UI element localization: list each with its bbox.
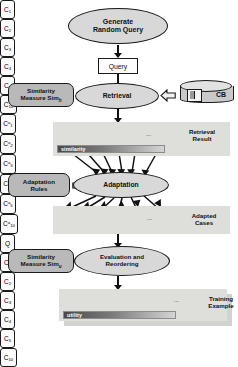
training-example-label: Training Example — [204, 295, 238, 309]
arrow-case-base-to-retrieval — [160, 89, 176, 102]
retrieval-result-line2: Result — [178, 135, 226, 142]
similarity-bottom-line2: Measure Simu — [21, 260, 62, 270]
adaptation-rules-line1: Adaptation — [23, 178, 55, 185]
adaptation-node[interactable]: Adaptation — [73, 172, 169, 198]
adapted-cases-line2: Cases — [180, 219, 228, 226]
training-case-chip-2[interactable]: C2 — [0, 272, 15, 291]
retrieval-result-line1: Retrieval — [178, 128, 226, 135]
query-box[interactable]: Query — [98, 58, 138, 74]
retrieval-result-label: Retrieval Result — [178, 128, 226, 142]
training-ellipsis: ... — [174, 297, 179, 303]
adapted-cases-line1: Adapted — [180, 212, 228, 219]
training-query-label: Q — [5, 240, 10, 247]
case-base-cylinder[interactable]: CB — [180, 80, 232, 108]
training-case-chip-last[interactable]: C10 — [0, 348, 17, 367]
retrieval-case-chip-1[interactable]: C1 — [0, 0, 15, 19]
similarity-bar-label: similarity — [58, 146, 86, 152]
similarity-measure-u-box[interactable]: Similarity Measure Simu — [8, 249, 74, 273]
retrieval-case-chip-4[interactable]: C4 — [0, 57, 15, 76]
generate-line1: Generate — [93, 18, 143, 26]
similarity-bottom-subscript: u — [59, 264, 62, 269]
adapted-case-chip-5[interactable]: Ca5 — [0, 194, 16, 214]
similarity-measure-h-box[interactable]: Similarity Measure Simh — [8, 83, 74, 107]
training-example-line2: Example — [204, 302, 238, 309]
utility-bar-label: utility — [64, 312, 82, 318]
adapted-cases-label: Adapted Cases — [180, 212, 228, 226]
adapted-case-chip-1[interactable]: Ca1 — [0, 114, 16, 134]
retrieval-ellipsis: ... — [146, 131, 151, 137]
similarity-bottom-label: Measure Sim — [21, 260, 59, 267]
evaluation-line2: Reordering — [100, 261, 144, 268]
adapted-case-chip-3[interactable]: Ca3 — [0, 154, 16, 174]
adapted-case-chip-2[interactable]: Ca2 — [0, 134, 16, 154]
similarity-top-subscript: h — [59, 98, 62, 103]
case-base-label: CB — [216, 91, 226, 98]
evaluation-reordering-node[interactable]: Evaluation and Reordering — [74, 246, 170, 276]
generate-random-query-node[interactable]: Generate Random Query — [68, 8, 168, 44]
adaptation-rules-box[interactable]: Adaptation Rules — [8, 173, 70, 197]
similarity-bottom-line1: Similarity — [21, 253, 62, 260]
adapted-case-chip-last[interactable]: Ca10 — [0, 214, 18, 234]
similarity-gradient-bar: similarity — [57, 145, 165, 153]
utility-gradient-bar: utility — [63, 311, 176, 319]
training-case-chip-4[interactable]: C4 — [0, 310, 15, 329]
retrieval-case-chip-2[interactable]: C2 — [0, 19, 15, 38]
generate-line2: Random Query — [93, 26, 143, 34]
retrieval-node[interactable]: Retrieval — [75, 83, 159, 109]
similarity-top-label: Measure Sim — [21, 94, 59, 101]
adaptation-rules-line2: Rules — [23, 185, 55, 192]
training-example-line1: Training — [204, 295, 238, 302]
case-card-icon — [187, 89, 202, 102]
retrieval-case-chip-3[interactable]: C3 — [0, 38, 15, 57]
training-case-chip-5[interactable]: C5 — [0, 329, 15, 348]
similarity-top-line2: Measure Simh — [21, 94, 62, 104]
similarity-top-line1: Similarity — [21, 87, 62, 94]
adapted-ellipsis: ... — [147, 215, 152, 221]
training-case-chip-3[interactable]: C3 — [0, 291, 15, 310]
